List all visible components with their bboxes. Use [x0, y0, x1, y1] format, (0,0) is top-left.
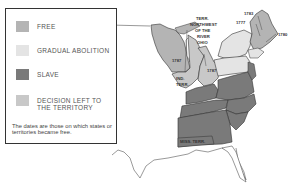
- region-florida: [222, 146, 246, 182]
- legend-note: The dates are those on which states or t…: [12, 123, 114, 136]
- region-new-york: [218, 30, 252, 58]
- region-new-england: [250, 10, 278, 50]
- label-miss-terr: MISS. TERR.: [180, 139, 205, 144]
- label-date-vt: 1777: [236, 20, 246, 25]
- swatch-territory-icon: [16, 95, 29, 106]
- legend-label-territory: DECISION LEFT TO THE TERRITORY: [37, 97, 105, 111]
- gulf-coast: [112, 148, 246, 180]
- legend-item-free: FREE: [16, 21, 56, 32]
- swatch-slave-icon: [16, 69, 29, 80]
- legend-label-free: FREE: [37, 23, 56, 30]
- label-date-nh: 1783: [244, 11, 254, 16]
- legend-item-slave: SLAVE: [16, 69, 59, 80]
- swatch-free-icon: [16, 21, 29, 32]
- label-date-wisconsin: 1787: [172, 58, 182, 63]
- legend-item-territory: DECISION LEFT TO THE TERRITORY: [16, 95, 105, 111]
- legend-item-gradual-abolition: GRADUAL ABOLITION: [16, 45, 109, 56]
- legend-label-gradual: GRADUAL ABOLITION: [37, 47, 109, 54]
- label-ind-terr-2: TERR.: [176, 82, 189, 87]
- label-ind-terr-1: IND.: [176, 76, 184, 81]
- swatch-gradual-icon: [16, 45, 29, 56]
- label-terr-nw-2: NORTHWEST: [190, 22, 217, 27]
- map-legend: FREE GRADUAL ABOLITION SLAVE DECISION LE…: [5, 8, 117, 144]
- label-terr-nw-4: RIVER: [197, 34, 210, 39]
- label-terr-nw-3: OF THE: [195, 28, 211, 33]
- label-date-ohio: 1787: [207, 68, 217, 73]
- label-date-ma: 1780: [278, 32, 288, 37]
- legend-label-slave: SLAVE: [37, 71, 59, 78]
- label-terr-nw-1: TERR.: [196, 16, 209, 21]
- label-terr-nw-5: OHIO: [197, 40, 208, 45]
- region-virginia: [216, 72, 254, 100]
